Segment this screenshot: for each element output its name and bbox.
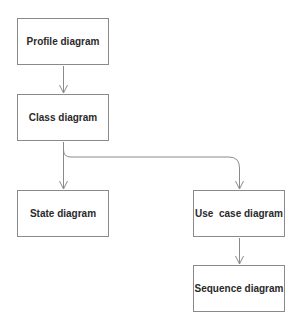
node-profile-diagram: Profile diagram <box>17 18 109 65</box>
node-label: Sequence diagram <box>195 283 284 294</box>
node-class-diagram: Class diagram <box>17 94 109 141</box>
node-label: Use case diagram <box>195 208 283 219</box>
node-use-case-diagram: Use case diagram <box>193 190 285 237</box>
node-sequence-diagram: Sequence diagram <box>193 265 285 312</box>
node-state-diagram: State diagram <box>17 190 109 237</box>
node-label: Class diagram <box>29 112 97 123</box>
node-label: Profile diagram <box>27 36 100 47</box>
node-label: State diagram <box>30 208 96 219</box>
edge-class-usecase <box>64 150 240 189</box>
